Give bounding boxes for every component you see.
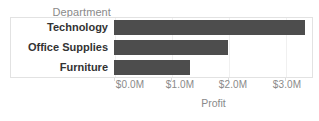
horizontal-bar-chart: Department Technology Office Supplies Fu… xyxy=(0,0,319,121)
tick-label-2: $2.0M xyxy=(219,79,247,90)
bar-furniture[interactable] xyxy=(114,60,190,75)
tick-label-1: $1.0M xyxy=(166,79,194,90)
bar-office-supplies[interactable] xyxy=(114,40,228,55)
tick-label-0: $0.0M xyxy=(116,79,144,90)
bar-row xyxy=(0,57,319,77)
bars-layer xyxy=(0,17,319,78)
value-axis: $0.0M $1.0M $2.0M $3.0M xyxy=(0,79,319,93)
value-axis-title: Profit xyxy=(114,97,313,109)
bar-row xyxy=(0,37,319,57)
bar-row xyxy=(0,17,319,37)
tick-label-3: $3.0M xyxy=(273,79,301,90)
bar-technology[interactable] xyxy=(114,20,305,35)
tick-mark xyxy=(114,78,115,81)
